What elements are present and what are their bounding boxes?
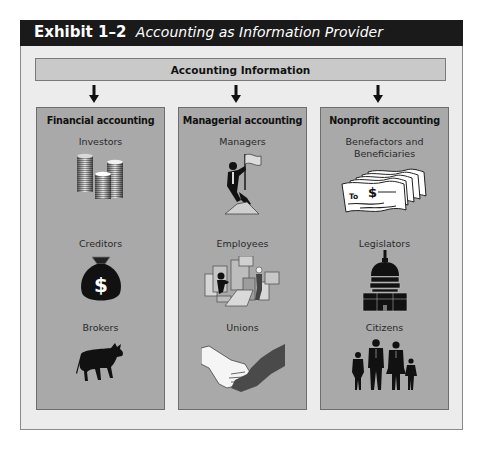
group-label-unions: Unions — [179, 322, 306, 334]
nonprofit-accounting-column: Nonprofit accounting Benefactors and Ben… — [320, 107, 449, 410]
svg-text:To: To — [349, 192, 358, 201]
coin-stacks-icon — [75, 152, 127, 200]
climber-with-flag-icon — [221, 152, 265, 216]
managerial-accounting-column: Managerial accounting Managers Employees — [178, 107, 307, 410]
group-label-creditors: Creditors — [37, 238, 164, 250]
exhibit-header: Exhibit 1–2 Accounting as Information Pr… — [20, 20, 463, 46]
exhibit-title: Accounting as Information Provider — [136, 24, 383, 40]
svg-text:$: $ — [94, 273, 108, 297]
group-label-managers: Managers — [179, 136, 306, 148]
arrow-down-icon — [89, 85, 99, 103]
column-title: Managerial accounting — [179, 115, 306, 126]
group-label-legislators: Legislators — [321, 238, 448, 250]
column-title: Nonprofit accounting — [321, 115, 448, 126]
financial-accounting-column: Financial accounting Investors Creditors… — [36, 107, 165, 410]
group-label-employees: Employees — [179, 238, 306, 250]
arrow-down-icon — [373, 85, 383, 103]
money-bag-icon: $ — [79, 255, 123, 305]
group-label-citizens: Citizens — [321, 322, 448, 334]
group-label-brokers: Brokers — [37, 322, 164, 334]
arrow-down-icon — [231, 85, 241, 103]
exhibit-number: Exhibit 1–2 — [34, 23, 126, 41]
handshake-icon — [201, 344, 285, 394]
bull-icon — [75, 340, 127, 384]
column-title: Financial accounting — [37, 115, 164, 126]
exhibit-panel: Exhibit 1–2 Accounting as Information Pr… — [20, 20, 463, 430]
group-label-investors: Investors — [37, 136, 164, 148]
office-workers-icon — [203, 256, 283, 308]
group-label-benefactors: Benefactors and Beneficiaries — [321, 136, 448, 160]
capitol-building-icon — [362, 250, 408, 312]
accounting-information-banner: Accounting Information — [35, 58, 446, 81]
family-icon — [351, 338, 419, 392]
checks-icon: To $ — [340, 166, 430, 216]
svg-text:$: $ — [368, 185, 377, 200]
